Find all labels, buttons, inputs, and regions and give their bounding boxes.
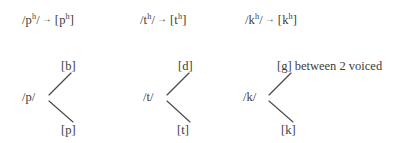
tree-k-lower-leaf: [k] — [281, 124, 296, 137]
tree-k-upper-leaf-label: [g] — [277, 59, 292, 73]
tree-k-root: /k/ — [243, 91, 256, 104]
tree-k-upper-branch — [269, 73, 291, 95]
tree-k-lower-branch — [269, 101, 293, 122]
phonology-diagram: /ph/→[ph] /th/→[th] /kh/→[kh] /p/ [b] [p… — [0, 0, 412, 143]
tree-k-upper-leaf: [g] between 2 voiced — [277, 60, 382, 73]
tree-k-lower-leaf-label: [k] — [281, 123, 296, 137]
tree-k-upper-leaf-condition: between 2 voiced — [292, 59, 383, 73]
